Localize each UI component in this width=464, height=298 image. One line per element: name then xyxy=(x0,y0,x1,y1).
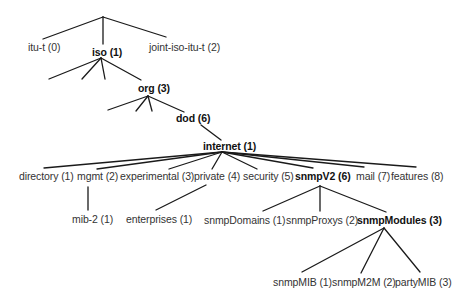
edge-snmpV2-to-snmpModules xyxy=(320,186,386,212)
node-internet: internet (1) xyxy=(203,140,256,152)
edge-private-to-enterprises xyxy=(156,185,206,210)
node-itu: itu-t (0) xyxy=(28,41,60,53)
node-snmpMIB: snmpMIB (1) xyxy=(273,276,332,288)
node-experimental: experimental (3) xyxy=(120,170,194,182)
node-mail: mail (7) xyxy=(356,170,390,182)
edge-snmpModules-to-partyMIB xyxy=(384,228,420,272)
node-org: org (3) xyxy=(138,82,170,94)
node-iso: iso (1) xyxy=(92,46,122,58)
edge-internet-to-features xyxy=(222,152,416,167)
node-features: features (8) xyxy=(391,170,444,182)
node-snmpDomains: snmpDomains (1) xyxy=(204,214,285,226)
node-joint: joint-iso-itu-t (2) xyxy=(149,41,220,53)
node-private: private (4) xyxy=(194,170,240,182)
edge-iso-to-unnamed-1 xyxy=(49,58,101,79)
edge-root-to-itu xyxy=(43,17,103,39)
edge-iso-to-org xyxy=(101,58,141,80)
node-snmpV2: snmpV2 (6) xyxy=(295,170,351,182)
edge-iso-to-unnamed-3 xyxy=(101,58,105,79)
oid-tree-diagram: itu-t (0)iso (1)joint-iso-itu-t (2)org (… xyxy=(0,0,464,298)
node-snmpModules: snmpModules (3) xyxy=(357,214,442,226)
node-snmpProxys: snmpProxys (2) xyxy=(286,214,358,226)
edge-org-to-dod xyxy=(148,96,184,112)
node-mgmt: mgmt (2) xyxy=(77,170,118,182)
node-directory: directory (1) xyxy=(19,170,74,182)
node-security: security (5) xyxy=(243,170,294,182)
node-dod: dod (6) xyxy=(176,112,210,124)
node-partyMIB: partyMIB (3) xyxy=(395,276,452,288)
edge-internet-to-mgmt xyxy=(97,152,222,169)
node-mib2: mib-2 (1) xyxy=(72,213,113,225)
edge-snmpV2-to-snmpDomains xyxy=(263,186,320,211)
edge-org-to-unnamed-6 xyxy=(148,96,152,111)
edge-root-to-joint xyxy=(103,17,166,37)
edge-snmpModules-to-snmpMIB xyxy=(302,228,384,272)
node-snmpM2M: snmpM2M (2) xyxy=(332,276,396,288)
node-enterprises: enterprises (1) xyxy=(126,213,192,225)
edge-dod-to-internet xyxy=(201,125,221,140)
